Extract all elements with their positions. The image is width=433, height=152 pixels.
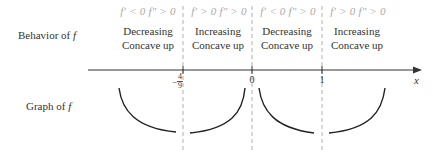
curve-decreasing-1 xyxy=(119,88,176,132)
diagram-graphics xyxy=(0,0,433,152)
denominator: 9 xyxy=(178,82,182,90)
tick-label-0: 0 xyxy=(248,74,256,85)
fraction: 49 xyxy=(177,73,183,90)
tick-label-1: 1 xyxy=(318,74,326,85)
tick-label-neg-4-9: −49 xyxy=(172,73,183,90)
curve-decreasing-2 xyxy=(259,88,314,133)
axis-arrow-icon xyxy=(413,67,422,74)
curve-increasing-2 xyxy=(329,88,385,133)
curve-increasing-1 xyxy=(190,88,245,133)
x-axis-label: x xyxy=(414,74,419,86)
